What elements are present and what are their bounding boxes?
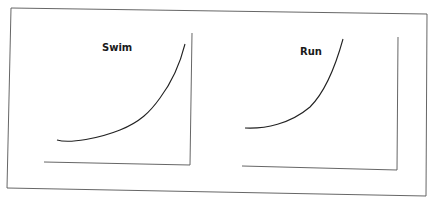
run-title: Run — [300, 46, 322, 57]
outer-frame — [7, 8, 427, 196]
run-curve — [245, 39, 343, 128]
swim-curve — [57, 44, 185, 141]
swim-title: Swim — [102, 42, 132, 53]
figure-canvas — [0, 0, 428, 198]
